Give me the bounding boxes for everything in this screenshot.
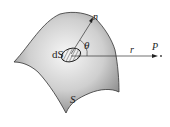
label-S: S bbox=[70, 93, 76, 105]
label-theta: θ bbox=[84, 39, 90, 51]
label-P: P bbox=[151, 41, 158, 52]
label-dS: dS bbox=[52, 48, 64, 60]
label-normal: n bbox=[93, 11, 98, 22]
r-arrowhead-icon bbox=[152, 54, 158, 58]
surface-diagram: dS θ n r P S bbox=[0, 0, 170, 127]
point-p-marker bbox=[160, 55, 162, 57]
curved-surface bbox=[14, 12, 119, 113]
label-r: r bbox=[130, 44, 134, 55]
